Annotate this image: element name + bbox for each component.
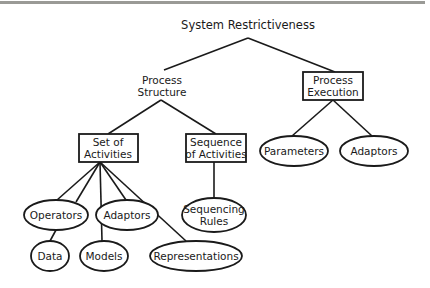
set-of-activities-line2: Activities (84, 148, 132, 160)
sequencing-rules-line2: Rules (200, 215, 228, 227)
operators-label: Operators (30, 209, 82, 221)
edge-set-operators (57, 162, 100, 200)
edge-structure-sequence (161, 100, 216, 134)
representations-label: Representations (153, 250, 238, 262)
adaptors-exec-label: Adaptors (350, 145, 397, 157)
process-structure-line1: Process (142, 74, 182, 86)
edge-operators-data (50, 230, 56, 241)
root-label: System Restrictiveness (181, 18, 315, 32)
edge-set-models (100, 162, 102, 241)
models-label: Models (86, 250, 123, 262)
edge-set-adaptors (100, 162, 126, 200)
edge-execution-adaptors (333, 100, 372, 136)
parameters-label: Parameters (264, 145, 324, 157)
hierarchy-diagram: System Restrictiveness Process Structure… (0, 0, 430, 288)
sequencing-rules-line1: Sequencing (183, 203, 245, 215)
set-of-activities-line1: Set of (93, 136, 124, 148)
edge-structure-set (108, 100, 161, 134)
edge-set-operators-2 (76, 162, 100, 202)
edge-root-process-structure (164, 38, 248, 70)
sequence-of-activities-line1: Sequence (190, 136, 242, 148)
process-execution-line1: Process (313, 74, 353, 86)
adaptors-set-label: Adaptors (103, 209, 150, 221)
edge-execution-parameters (292, 100, 333, 136)
data-label: Data (37, 250, 62, 262)
process-structure-line2: Structure (138, 86, 187, 98)
edge-root-process-execution (248, 38, 335, 72)
sequence-of-activities-line2: of Activities (185, 148, 246, 160)
process-execution-line2: Execution (307, 86, 359, 98)
